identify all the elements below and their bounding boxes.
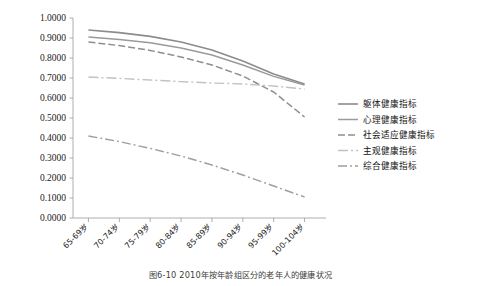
x-tick-label: 65-69岁 bbox=[61, 221, 90, 250]
y-tick-label: 0.8000 bbox=[40, 53, 66, 63]
x-tick-label: 80-84岁 bbox=[153, 221, 182, 250]
x-tick-label: 70-74岁 bbox=[92, 221, 121, 250]
series-line-3 bbox=[88, 77, 304, 89]
series-line-2 bbox=[88, 42, 304, 117]
figure-caption: 图6-10 2010年按年龄组区分的老年人的健康状况 bbox=[0, 268, 481, 280]
series-line-4 bbox=[88, 136, 304, 197]
line-chart: 0.00000.10000.20000.30000.40000.50000.60… bbox=[0, 0, 481, 286]
y-tick-label: 0.6000 bbox=[40, 93, 66, 103]
y-tick-label: 0.9000 bbox=[40, 33, 66, 43]
x-tick-label: 100-104岁 bbox=[270, 221, 306, 257]
legend-label-3: 主观健康指标 bbox=[363, 145, 417, 156]
y-tick-label: 0.5000 bbox=[40, 113, 66, 123]
y-tick-label: 0.2000 bbox=[40, 173, 66, 183]
x-tick-label: 75-79岁 bbox=[122, 221, 151, 250]
legend-label-4: 综合健康指标 bbox=[363, 160, 417, 171]
x-tick-label: 90-94岁 bbox=[215, 221, 244, 250]
x-tick-label: 85-89岁 bbox=[184, 221, 213, 250]
y-tick-label: 0.0000 bbox=[40, 213, 66, 223]
x-axis: 65-69岁70-74岁75-79岁80-84岁85-89岁90-94岁95-9… bbox=[61, 218, 326, 258]
series-lines bbox=[88, 30, 304, 197]
legend-label-0: 躯体健康指标 bbox=[363, 98, 417, 109]
x-tick-label: 95-99岁 bbox=[246, 221, 275, 250]
legend-label-2: 社会适应健康指标 bbox=[363, 129, 435, 140]
y-axis: 0.00000.10000.20000.30000.40000.50000.60… bbox=[40, 13, 73, 223]
chart-legend: 躯体健康指标心理健康指标社会适应健康指标主观健康指标综合健康指标 bbox=[338, 98, 435, 171]
y-tick-label: 1.0000 bbox=[40, 13, 66, 23]
y-tick-label: 0.1000 bbox=[40, 193, 66, 203]
y-tick-label: 0.4000 bbox=[40, 133, 66, 143]
y-tick-label: 0.3000 bbox=[40, 153, 66, 163]
legend-label-1: 心理健康指标 bbox=[363, 114, 417, 125]
figure-container: 0.00000.10000.20000.30000.40000.50000.60… bbox=[0, 0, 481, 286]
y-tick-label: 0.7000 bbox=[40, 73, 66, 83]
